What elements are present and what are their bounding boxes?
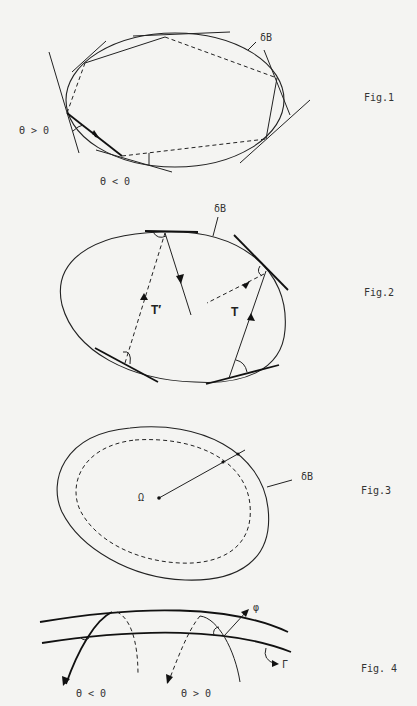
fig3-boundary-curve xyxy=(57,427,269,580)
fig2-label-t: T xyxy=(231,305,239,319)
fig1: δB Θ > 0 Θ < 0 Fig.1 xyxy=(19,32,394,187)
fig1-dashed-chord xyxy=(122,139,266,156)
fig2-path xyxy=(165,233,191,315)
fig2-dashed-path xyxy=(207,274,264,303)
fig2-tangent xyxy=(234,235,288,290)
fig1-tangent xyxy=(72,41,106,72)
fig4-outer-curve xyxy=(40,610,288,632)
fig3-center-label: Ω xyxy=(138,492,144,503)
fig3: Ω δB Fig.3 xyxy=(57,427,391,580)
fig2-leader xyxy=(213,217,218,236)
fig2-arrowhead xyxy=(247,313,255,321)
fig1-dashed-chord xyxy=(67,63,85,113)
fig4-arrowhead xyxy=(272,660,279,667)
fig2-arrowhead xyxy=(176,274,184,284)
fig1-arrowhead xyxy=(92,130,100,139)
fig4-trajectory-right xyxy=(200,616,240,682)
fig1-tangent xyxy=(96,150,172,172)
fig2-angle-arc xyxy=(236,360,247,372)
fig2-tangent xyxy=(95,348,158,382)
fig2-caption: Fig.2 xyxy=(364,287,394,298)
fig3-radius-line xyxy=(159,450,245,498)
fig1-dashed-chord xyxy=(165,37,277,78)
fig1-angle-positive-label: Θ > 0 xyxy=(19,125,49,136)
fig2-boundary-curve xyxy=(60,232,285,383)
fig4-caption: Fig. 4 xyxy=(361,663,397,674)
fig4-angle-negative-label: Θ < 0 xyxy=(76,688,106,699)
fig4-angle-positive-label: Θ > 0 xyxy=(181,688,211,699)
fig4-inner-curve xyxy=(42,633,291,652)
fig2-angle-arc xyxy=(123,352,130,364)
fig4: φ Γ Θ < 0 Θ > 0 Fig. 4 xyxy=(40,602,397,699)
fig2-tangent xyxy=(206,365,279,384)
fig1-angle-negative-label: Θ < 0 xyxy=(100,176,130,187)
fig1-tangent xyxy=(49,52,79,153)
fig1-tangent xyxy=(240,100,310,163)
fig1-tangent xyxy=(264,50,290,115)
fig1-caption: Fig.1 xyxy=(364,92,394,103)
figure-page: δB Θ > 0 Θ < 0 Fig.1 δB T′ T Fig.2 xyxy=(0,0,417,706)
fig4-gamma-label: Γ xyxy=(282,659,288,670)
fig2-tangent xyxy=(145,231,198,232)
fig1-chord xyxy=(85,37,165,63)
fig3-caption: Fig.3 xyxy=(361,485,391,496)
fig3-inner-dashed-curve xyxy=(76,440,250,564)
fig1-boundary-leader xyxy=(248,42,256,50)
fig3-boundary-point xyxy=(236,452,239,455)
fig4-arrowhead xyxy=(166,674,173,684)
fig3-center-point xyxy=(157,496,161,500)
fig2-arrowhead xyxy=(242,281,250,289)
fig3-inner-point xyxy=(221,460,224,463)
fig1-chord xyxy=(266,78,277,139)
fig4-trajectory-left xyxy=(66,612,112,684)
fig2-label-t-prime: T′ xyxy=(151,303,161,317)
fig4-dashed-right xyxy=(168,616,200,683)
fig2-boundary-label: δB xyxy=(214,203,226,214)
fig2: δB T′ T Fig.2 xyxy=(60,203,394,384)
fig2-arrowhead xyxy=(140,293,148,300)
fig4-dashed-left xyxy=(117,612,138,675)
fig2-angle-arc xyxy=(258,266,262,276)
fig3-leader xyxy=(267,480,292,487)
fig4-phi-label: φ xyxy=(253,602,259,613)
fig2-path-t xyxy=(229,271,266,378)
fig3-boundary-label: δB xyxy=(301,471,313,482)
fig1-boundary-curve xyxy=(66,33,284,167)
fig1-boundary-label: δB xyxy=(260,32,272,43)
